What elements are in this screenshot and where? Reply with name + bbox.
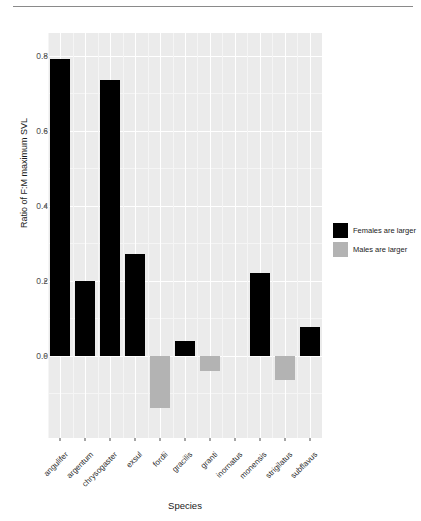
y-tick-label: 0.8 [6,51,48,61]
gridline-v-minor [197,33,198,438]
bar-fordii[interactable] [150,356,170,409]
y-tick-label: 0.2 [6,276,48,286]
legend-swatch-icon [333,242,348,257]
x-tick-mark [234,438,235,441]
bar-angulifer[interactable] [50,59,70,355]
x-tick-mark [60,438,61,441]
x-tick-mark [284,438,285,441]
bar-chart-figure: Ratio of F:M maximum SVL 0.00.20.40.60.8… [0,0,421,521]
y-tick-mark [44,280,47,281]
legend: Females are largerMales are larger [333,221,421,259]
y-tick-label: 0.6 [6,126,48,136]
gridline-v-major [135,33,136,438]
y-axis-ticks: 0.00.20.40.60.8 [0,0,48,521]
bar-exsul[interactable] [125,254,145,355]
legend-label: Males are larger [353,245,407,254]
gridline-v-minor [48,33,49,438]
bar-monensis[interactable] [250,273,270,356]
gridline-v-minor [222,33,223,438]
x-tick-label-gracilis: gracilis [170,450,194,474]
gridline-v-minor [297,33,298,438]
gridline-v-minor [123,33,124,438]
gridline-v-major [210,33,211,438]
y-tick-label: 0.0 [6,351,48,361]
y-tick-mark [44,205,47,206]
y-tick-mark [44,355,47,356]
gridline-v-major [260,33,261,438]
gridline-v-minor [173,33,174,438]
x-tick-label-exsul: exsul [125,450,145,470]
x-tick-mark [209,438,210,441]
legend-item-females[interactable]: Females are larger [333,221,421,240]
x-tick-label-fordii: fordii [151,450,170,469]
plot-panel [48,33,322,438]
gridline-v-major [185,33,186,438]
legend-item-males[interactable]: Males are larger [333,240,421,259]
y-tick-mark [44,55,47,56]
gridline-v-minor [272,33,273,438]
bar-chrysogaster[interactable] [100,80,120,356]
x-tick-label-strigilatus: strigilatus [264,450,294,480]
x-tick-label-granti: granti [199,450,220,471]
gridline-v-major [310,33,311,438]
legend-label: Females are larger [353,226,416,235]
x-tick-mark [309,438,310,441]
gridline-v-minor [98,33,99,438]
y-tick-label: 0.4 [6,201,48,211]
bar-gracilis[interactable] [175,341,195,356]
x-tick-mark [110,438,111,441]
bar-subflavus[interactable] [300,327,320,355]
bar-granti[interactable] [200,356,220,371]
legend-swatch-icon [333,223,348,238]
x-tick-mark [135,438,136,441]
gridline-v-minor [73,33,74,438]
x-tick-mark [185,438,186,441]
x-tick-mark [259,438,260,441]
gridline-v-major [85,33,86,438]
gridline-v-major [235,33,236,438]
gridline-v-minor [148,33,149,438]
gridline-v-minor [247,33,248,438]
x-tick-mark [85,438,86,441]
bar-strigilatus[interactable] [275,356,295,380]
bar-argentum[interactable] [75,281,95,356]
y-tick-mark [44,130,47,131]
x-axis-title: Species [48,500,322,511]
x-tick-mark [160,438,161,441]
